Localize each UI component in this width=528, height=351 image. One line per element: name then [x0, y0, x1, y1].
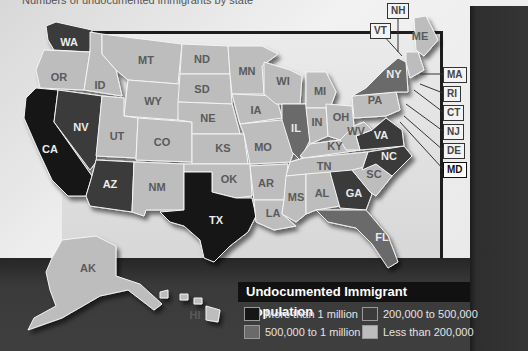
state-label-wv: WV	[347, 125, 365, 137]
legend-swatch-200k-500k	[362, 307, 378, 321]
state-label-wi: WI	[276, 75, 289, 87]
state-label-il: IL	[291, 122, 301, 134]
state-label-ks: KS	[215, 142, 230, 154]
state-label-az: AZ	[103, 178, 118, 190]
state-label-nv: NV	[73, 121, 89, 133]
state-label-tn: TN	[317, 160, 332, 172]
state-label-mn: MN	[238, 65, 255, 77]
state-label-oh: OH	[333, 111, 350, 123]
state-label-mt: MT	[138, 54, 154, 66]
legend-item-less-than-200k: Less than 200,000	[362, 325, 474, 339]
state-label-ut: UT	[110, 130, 125, 142]
callout-ma: MA	[443, 67, 467, 83]
state-AK	[28, 236, 162, 330]
callout-ct: CT	[443, 105, 464, 121]
state-label-wa: WA	[60, 36, 78, 48]
state-label-sd: SD	[194, 83, 209, 95]
state-label-nd: ND	[194, 53, 210, 65]
state-label-al: AL	[315, 187, 330, 199]
state-label-mo: MO	[254, 141, 272, 153]
callout-ri: RI	[443, 86, 461, 102]
state-label-co: CO	[154, 136, 171, 148]
legend-label: More than 1 million	[265, 308, 358, 320]
legend-swatch-less-than-200k	[362, 325, 378, 339]
callout-nh: NH	[387, 3, 409, 19]
legend-swatch-more-than-1m	[244, 307, 260, 321]
state-label-ar: AR	[258, 177, 274, 189]
callout-nj: NJ	[443, 124, 464, 140]
state-label-pa: PA	[368, 94, 383, 106]
state-label-fl: FL	[375, 231, 389, 243]
state-label-in: IN	[312, 116, 323, 128]
callout-de: DE	[443, 143, 465, 159]
state-label-hi: HI	[190, 309, 201, 321]
state-label-ca: CA	[42, 143, 58, 155]
legend-title: Undocumented Immigrant Population	[238, 282, 470, 302]
legend-swatch-500k-1m	[244, 325, 260, 339]
legend-label: 200,000 to 500,000	[383, 308, 478, 320]
state-label-or: OR	[51, 71, 68, 83]
state-label-id: ID	[95, 79, 106, 91]
state-label-wy: WY	[144, 95, 162, 107]
legend-item-200k-500k: 200,000 to 500,000	[362, 307, 478, 321]
state-label-la: LA	[266, 207, 281, 219]
state-label-nc: NC	[381, 150, 397, 162]
state-label-tx: TX	[209, 214, 224, 226]
state-label-sc: SC	[366, 168, 381, 180]
state-label-me: ME	[412, 30, 429, 42]
state-label-ia: IA	[251, 104, 262, 116]
legend-label: Less than 200,000	[383, 326, 474, 338]
state-label-ne: NE	[200, 112, 215, 124]
state-label-ky: KY	[327, 140, 343, 152]
state-label-ga: GA	[346, 187, 363, 199]
state-label-va: VA	[374, 129, 389, 141]
state-label-ny: NY	[386, 68, 402, 80]
legend-label: 500,000 to 1 million	[265, 326, 360, 338]
legend-item-more-than-1m: More than 1 million	[244, 307, 358, 321]
state-label-ak: AK	[80, 262, 96, 274]
state-label-nm: NM	[148, 181, 165, 193]
callout-vt: VT	[370, 23, 391, 39]
state-label-ok: OK	[221, 173, 238, 185]
state-label-mi: MI	[314, 85, 326, 97]
state-label-ms: MS	[288, 191, 305, 203]
callout-md: MD	[443, 162, 467, 178]
legend-item-500k-1m: 500,000 to 1 million	[244, 325, 360, 339]
